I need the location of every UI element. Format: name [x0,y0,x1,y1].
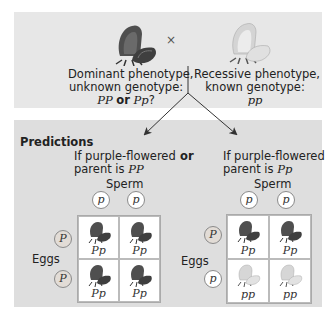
offspring-cell: Pp [119,259,160,302]
purple-flower-icon [235,218,261,244]
offspring-genotype: Pp [120,244,159,257]
recessive-parent-label: Recessive phenotype, known genotype: pp [194,68,316,107]
hypothesis-genotype: PP [128,162,143,176]
genotype-PP: PP [97,93,112,107]
sperm-allele: p [240,191,258,209]
offspring-cell: pp [227,259,269,303]
white-flower-icon [226,18,274,64]
sperm-allele: p [127,191,145,209]
offspring-cell: Pp [119,216,160,259]
offspring-genotype: pp [270,288,310,301]
predictions-or: or [180,150,194,163]
genotype-options: PP or Pp? [68,94,184,107]
offspring-genotype: Pp [270,244,310,257]
punnett-square-Pp: Pp Pp pp pp [226,214,312,304]
left-hypothesis: If purple-flowered parent is PP [74,150,176,176]
sperm-allele: p [92,191,110,209]
egg-allele: p [204,270,222,288]
purple-flower-icon [277,218,303,244]
hypothesis-genotype: Pp [277,162,292,176]
dominant-parent-label: Dominant phenotype, unknown genotype: PP… [68,68,184,107]
offspring-cell: Pp [269,215,311,259]
offspring-genotype: Pp [228,244,268,257]
offspring-cell: pp [269,259,311,303]
eggs-label: Eggs [32,253,60,266]
genotype-Pp: Pp [134,93,149,107]
purple-flower-icon [86,262,112,288]
hypothesis-line2: parent is [223,162,277,176]
egg-allele: P [54,270,72,288]
cross-symbol: × [166,34,176,47]
offspring-cell: Pp [78,259,119,302]
egg-allele: P [204,226,222,244]
white-flower-icon [277,262,303,288]
or-text: or [116,93,130,107]
predictions-title: Predictions [20,136,93,149]
hypothesis-line2: parent is [74,162,128,176]
right-hypothesis: If purple-flowered parent is Pp [223,150,325,176]
offspring-genotype: Pp [79,287,118,300]
purple-flower-icon [127,262,153,288]
question-mark: ? [149,93,155,107]
sperm-allele: p [277,191,295,209]
white-flower-icon [235,262,261,288]
egg-allele: P [54,230,72,248]
offspring-cell: Pp [227,215,269,259]
offspring-genotype: Pp [79,244,118,257]
purple-flower-icon [86,219,112,245]
purple-flower-icon [112,20,160,66]
purple-flower-icon [127,219,153,245]
punnett-square-PP: Pp Pp Pp Pp [77,215,161,303]
sperm-label: Sperm [254,178,291,191]
offspring-genotype: Pp [120,287,159,300]
sperm-label: Sperm [106,178,143,191]
genotype-pp: pp [194,94,316,107]
offspring-cell: Pp [78,216,119,259]
offspring-genotype: pp [228,288,268,301]
eggs-label: Eggs [181,255,209,268]
